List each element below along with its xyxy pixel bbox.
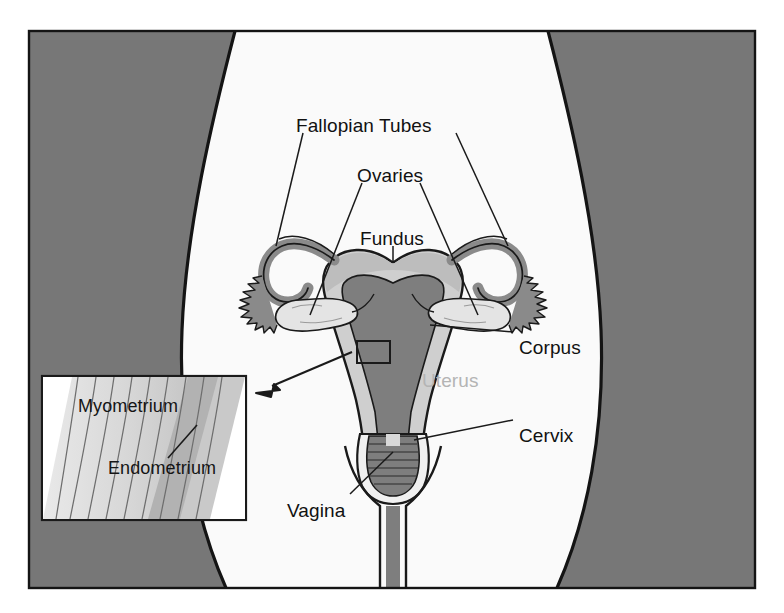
label-fundus: Fundus xyxy=(360,228,424,250)
label-myometrium: Myometrium xyxy=(78,396,178,417)
anatomy-illustration xyxy=(0,0,784,613)
label-ovaries: Ovaries xyxy=(357,165,423,187)
label-endometrium: Endometrium xyxy=(108,458,216,479)
label-fallopian-tubes: Fallopian Tubes xyxy=(296,115,432,137)
label-vagina: Vagina xyxy=(287,500,345,522)
label-cervix: Cervix xyxy=(519,425,573,447)
label-uterus: Uterus xyxy=(422,370,479,392)
label-corpus: Corpus xyxy=(519,337,581,359)
diagram-stage: Fallopian Tubes Ovaries Fundus Corpus Ut… xyxy=(0,0,784,613)
